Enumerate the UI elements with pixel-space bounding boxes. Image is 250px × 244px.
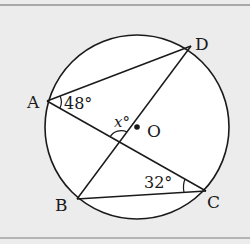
center-point-o: [134, 124, 140, 130]
point-label-d: D: [195, 34, 209, 54]
point-label-b: B: [55, 195, 68, 215]
circle-geometry-diagram: A D B C O 48° 32° x°: [0, 0, 250, 244]
point-label-c: C: [207, 192, 220, 212]
point-label-a: A: [26, 92, 40, 112]
point-label-o: O: [147, 121, 161, 141]
angle-label-32: 32°: [144, 173, 172, 192]
angle-label-x: x°: [114, 113, 130, 131]
angle-label-48: 48°: [64, 94, 92, 113]
